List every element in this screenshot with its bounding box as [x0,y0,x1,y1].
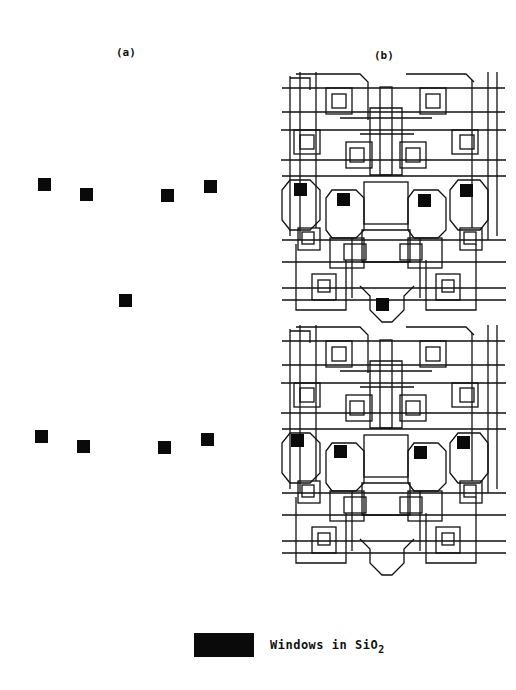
legend-swatch [194,633,254,657]
legend-subscript: 2 [378,644,385,655]
legend-text: Windows in SiO [270,638,378,652]
panel-b-layout [0,0,516,690]
legend-label: Windows in SiO2 [270,638,385,655]
